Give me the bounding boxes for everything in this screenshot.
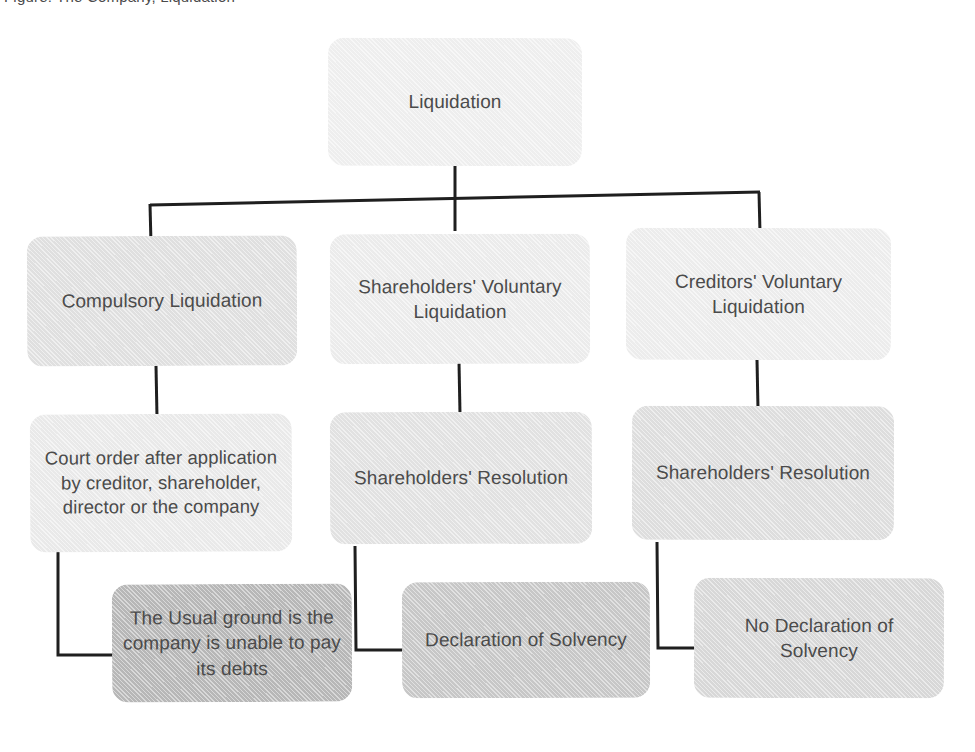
node-declaration-of-solvency[interactable]: Declaration of Solvency	[402, 582, 650, 699]
edge-court-order-to-usual-ground	[58, 550, 120, 655]
node-shareholders-resolution-2-label: Shareholders' Resolution	[642, 460, 884, 486]
node-court-order-label: Court order after application by credito…	[40, 446, 282, 520]
node-no-declaration-of-solvency[interactable]: No Declaration of Solvency	[694, 578, 944, 698]
node-creditors-voluntary-liquidation-label: Creditors' Voluntary Liquidation	[636, 269, 881, 320]
node-compulsory-liquidation-label: Compulsory Liquidation	[37, 288, 287, 314]
node-no-declaration-of-solvency-label: No Declaration of Solvency	[704, 613, 934, 664]
diagram-page: Figure: The Company, Liquidation Liquida…	[0, 0, 975, 752]
node-liquidation[interactable]: Liquidation	[328, 38, 582, 166]
node-declaration-of-solvency-label: Declaration of Solvency	[412, 627, 640, 653]
node-shareholders-voluntary-liquidation[interactable]: Shareholders' Voluntary Liquidation	[330, 234, 590, 365]
page-caption-text: Figure: The Company, Liquidation	[4, 0, 235, 5]
node-shareholders-resolution-1-label: Shareholders' Resolution	[340, 465, 582, 491]
node-shareholders-resolution-1[interactable]: Shareholders' Resolution	[330, 412, 592, 545]
node-creditors-voluntary-liquidation[interactable]: Creditors' Voluntary Liquidation	[626, 228, 891, 360]
edge-compulsory-to-court-order	[156, 366, 157, 417]
edge-bus-horizontal	[150, 192, 760, 205]
node-compulsory-liquidation[interactable]: Compulsory Liquidation	[27, 235, 298, 366]
node-liquidation-label: Liquidation	[338, 89, 572, 114]
edge-bus-drop-right	[759, 192, 760, 233]
node-usual-ground-label: The Usual ground is the company is unabl…	[122, 605, 342, 681]
node-shareholders-voluntary-liquidation-label: Shareholders' Voluntary Liquidation	[340, 274, 580, 325]
node-court-order[interactable]: Court order after application by credito…	[30, 413, 293, 552]
edge-svl-to-resolution-1	[459, 362, 460, 414]
page-caption-strip: Figure: The Company, Liquidation	[0, 0, 975, 14]
node-shareholders-resolution-2[interactable]: Shareholders' Resolution	[632, 406, 894, 540]
edge-cvl-to-resolution-2	[757, 360, 758, 409]
node-usual-ground[interactable]: The Usual ground is the company is unabl…	[112, 583, 353, 702]
